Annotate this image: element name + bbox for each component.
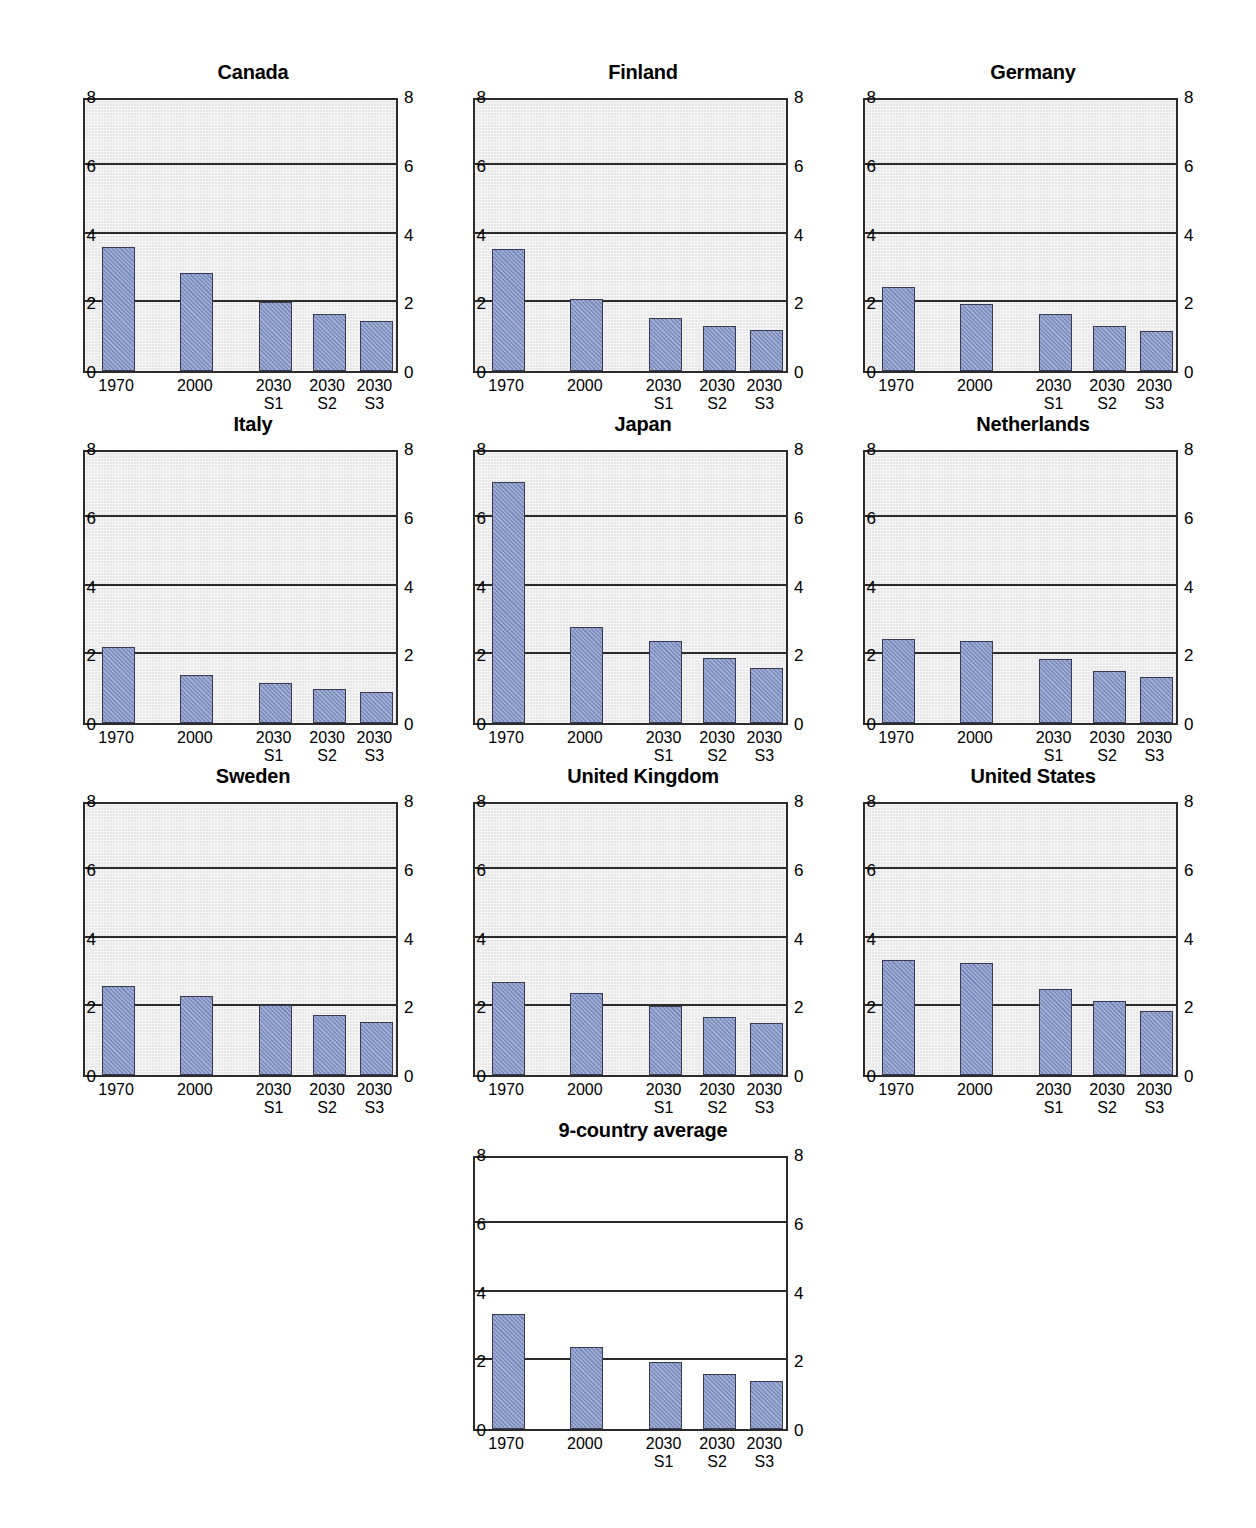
panel-title: Netherlands <box>838 412 1228 436</box>
x-axis-tick-label-scenario: S1 <box>1026 1099 1082 1117</box>
gridline <box>475 1290 786 1292</box>
bar <box>570 627 603 723</box>
x-axis-tick-label-scenario: S3 <box>1126 1099 1182 1117</box>
x-axis-tick-label-year: 2030 <box>736 377 792 395</box>
y-axis-tick-label-left: 4 <box>468 931 486 948</box>
x-axis-tick-label: 2030S3 <box>736 729 792 765</box>
x-axis-tick-label: 2030S1 <box>636 1081 692 1117</box>
y-axis-tick-label-left: 4 <box>858 931 876 948</box>
x-axis-tick-label-year: 2000 <box>167 729 223 747</box>
bar <box>180 675 213 723</box>
x-axis-tick-label: 1970 <box>88 1081 144 1099</box>
y-axis-tick-label-right: 0 <box>794 1068 812 1085</box>
plot-area <box>473 450 788 725</box>
y-axis-tick-label-right: 6 <box>1184 862 1202 879</box>
y-axis-tick-label-left: 4 <box>78 227 96 244</box>
x-axis-tick-label: 2030S3 <box>1126 1081 1182 1117</box>
x-axis-tick-label: 2000 <box>557 729 613 747</box>
x-axis-tick-label: 2000 <box>557 377 613 395</box>
x-axis-tick-label-scenario: S1 <box>636 395 692 413</box>
bar <box>259 302 292 371</box>
y-axis-tick-label-right: 2 <box>404 295 422 312</box>
x-axis-tick-label: 2030S3 <box>346 729 402 765</box>
bar <box>180 273 213 371</box>
bar <box>649 1006 682 1075</box>
panel-title: Canada <box>58 60 448 84</box>
x-axis-tick-label-year: 2000 <box>557 377 613 395</box>
x-axis-tick-label-year: 2030 <box>1126 729 1182 747</box>
plot-area <box>863 802 1178 1077</box>
x-axis-tick-label-year: 2030 <box>636 1435 692 1453</box>
y-axis-tick-label-left: 8 <box>858 793 876 810</box>
y-axis-tick-label-right: 2 <box>794 999 812 1016</box>
x-axis-tick-label-scenario: S3 <box>1126 395 1182 413</box>
plot-area <box>83 450 398 725</box>
bar <box>313 1015 346 1075</box>
plot-area <box>473 98 788 373</box>
plot-area <box>863 98 1178 373</box>
plot-area <box>473 1156 788 1431</box>
bar <box>102 986 135 1075</box>
x-axis-tick-label-year: 2000 <box>167 1081 223 1099</box>
bar <box>703 1017 736 1075</box>
x-axis-tick-label-scenario: S1 <box>1026 395 1082 413</box>
gridline <box>475 163 786 165</box>
bar <box>1039 659 1072 723</box>
y-axis-tick-label-right: 8 <box>404 89 422 106</box>
x-axis-tick-label-scenario: S1 <box>636 747 692 765</box>
gridline <box>475 867 786 869</box>
panel-title: United States <box>838 764 1228 788</box>
x-axis-tick-label: 1970 <box>88 377 144 395</box>
y-axis-tick-label-left: 2 <box>78 647 96 664</box>
x-axis-tick-label-year: 1970 <box>868 729 924 747</box>
x-axis-tick-label: 2030S1 <box>1026 729 1082 765</box>
bar <box>1093 671 1126 723</box>
y-axis-tick-label-right: 4 <box>794 931 812 948</box>
x-axis-tick-label-scenario: S1 <box>246 1099 302 1117</box>
y-axis-tick-label-left: 4 <box>468 227 486 244</box>
bar <box>259 1005 292 1075</box>
gridline <box>865 584 1176 586</box>
y-axis-tick-label-left: 8 <box>78 441 96 458</box>
bar <box>570 993 603 1076</box>
chart-panel: United States0022446688197020002030S1203… <box>838 764 1228 1114</box>
x-axis-tick-label: 2030S1 <box>636 377 692 413</box>
chart-panel: Netherlands0022446688197020002030S12030S… <box>838 412 1228 762</box>
y-axis-tick-label-right: 4 <box>1184 931 1202 948</box>
chart-panel: Italy0022446688197020002030S12030S22030S… <box>58 412 448 762</box>
bar <box>1093 326 1126 371</box>
y-axis-tick-label-left: 6 <box>858 862 876 879</box>
y-axis-tick-label-left: 6 <box>468 510 486 527</box>
x-axis-tick-label-year: 1970 <box>88 729 144 747</box>
y-axis-tick-label-left: 8 <box>858 441 876 458</box>
panel-title: Germany <box>838 60 1228 84</box>
y-axis-tick-label-right: 2 <box>1184 647 1202 664</box>
y-axis-tick-label-right: 4 <box>794 579 812 596</box>
x-axis-tick-label: 2000 <box>167 1081 223 1099</box>
bar <box>649 1362 682 1429</box>
gridline <box>475 232 786 234</box>
x-axis-tick-label-year: 2000 <box>947 729 1003 747</box>
chart-panel: Canada0022446688197020002030S12030S22030… <box>58 60 448 410</box>
gridline <box>85 584 396 586</box>
x-axis-tick-label-year: 2030 <box>1126 377 1182 395</box>
chart-panel: 9-country average0022446688197020002030S… <box>448 1118 838 1468</box>
x-axis-tick-label: 2030S3 <box>1126 729 1182 765</box>
y-axis-tick-label-left: 2 <box>468 999 486 1016</box>
y-axis-tick-label-left: 8 <box>468 441 486 458</box>
x-axis-tick-label: 1970 <box>478 1435 534 1453</box>
y-axis-tick-label-left: 4 <box>78 579 96 596</box>
x-axis-tick-label: 2000 <box>557 1081 613 1099</box>
x-axis-tick-label-year: 1970 <box>478 1081 534 1099</box>
x-axis-tick-label-year: 2030 <box>636 729 692 747</box>
y-axis-tick-label-right: 0 <box>404 716 422 733</box>
gridline <box>85 936 396 938</box>
chart-panel: Sweden0022446688197020002030S12030S22030… <box>58 764 448 1114</box>
y-axis-tick-label-right: 2 <box>794 295 812 312</box>
y-axis-tick-label-left: 6 <box>78 158 96 175</box>
y-axis-tick-label-right: 6 <box>404 862 422 879</box>
y-axis-tick-label-left: 4 <box>78 931 96 948</box>
x-axis-tick-label: 2030S3 <box>736 1435 792 1471</box>
y-axis-tick-label-left: 2 <box>468 295 486 312</box>
bar <box>259 683 292 723</box>
